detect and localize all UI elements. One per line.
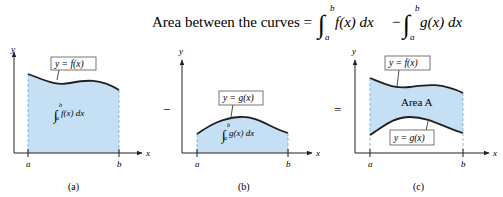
region-label: Area A bbox=[401, 96, 433, 108]
tick-label-b: b bbox=[286, 159, 291, 169]
integral-body: f(x) dx bbox=[61, 108, 84, 118]
integral-1-upper: b bbox=[330, 3, 335, 13]
panel-caption: (c) bbox=[413, 181, 424, 193]
tick-label-b: b bbox=[117, 159, 122, 169]
title-minus: − bbox=[392, 14, 400, 30]
leader-line bbox=[231, 104, 233, 117]
tick-label-b: b bbox=[461, 159, 466, 169]
title-formula: Area between the curves = ∫ b a f(x) dx … bbox=[152, 3, 462, 42]
leader-line bbox=[57, 70, 59, 80]
panel-b: y x a b y = g(x) ∫ b a g(x) dx (b) bbox=[178, 46, 320, 193]
integral-lower: a bbox=[56, 115, 59, 121]
tick-label-a: a bbox=[368, 159, 373, 169]
integral-body: g(x) dx bbox=[229, 128, 254, 138]
y-axis-label: y bbox=[10, 44, 15, 54]
title-prefix: Area between the curves = bbox=[152, 14, 312, 30]
bottom-curve-label: y = g(x) bbox=[393, 133, 425, 144]
y-axis-label: y bbox=[351, 46, 356, 56]
area-between-curves-diagram: Area between the curves = ∫ b a f(x) dx … bbox=[0, 0, 503, 197]
minus-operator: − bbox=[163, 102, 170, 117]
bottom-leader-line bbox=[426, 121, 428, 131]
integral-1-body: f(x) dx bbox=[335, 14, 374, 31]
panel-caption: (a) bbox=[68, 181, 79, 193]
panel-a: y x a b y = f(x) ∫ b a f(x) dx (a) bbox=[10, 44, 150, 193]
curve-label: y = f(x) bbox=[54, 59, 84, 70]
top-curve-label: y = f(x) bbox=[388, 58, 418, 69]
integral-1-lower: a bbox=[325, 32, 330, 42]
equals-operator: = bbox=[334, 102, 341, 117]
integral-2-lower: a bbox=[410, 32, 415, 42]
integral-2-upper: b bbox=[415, 3, 420, 13]
top-leader-line bbox=[397, 70, 399, 86]
tick-label-a: a bbox=[195, 159, 200, 169]
integral-2-body: g(x) dx bbox=[420, 14, 462, 31]
x-axis-label: x bbox=[315, 148, 320, 158]
x-axis-label: x bbox=[145, 148, 150, 158]
integral-lower: a bbox=[224, 135, 227, 141]
curve-label: y = g(x) bbox=[222, 93, 254, 104]
panel-c: y x a b y = f(x) y = g(x) Area A (c) bbox=[351, 46, 497, 193]
y-axis-label: y bbox=[178, 46, 183, 56]
tick-label-a: a bbox=[26, 159, 31, 169]
panel-caption: (b) bbox=[238, 181, 250, 193]
x-axis-label: x bbox=[492, 148, 497, 158]
